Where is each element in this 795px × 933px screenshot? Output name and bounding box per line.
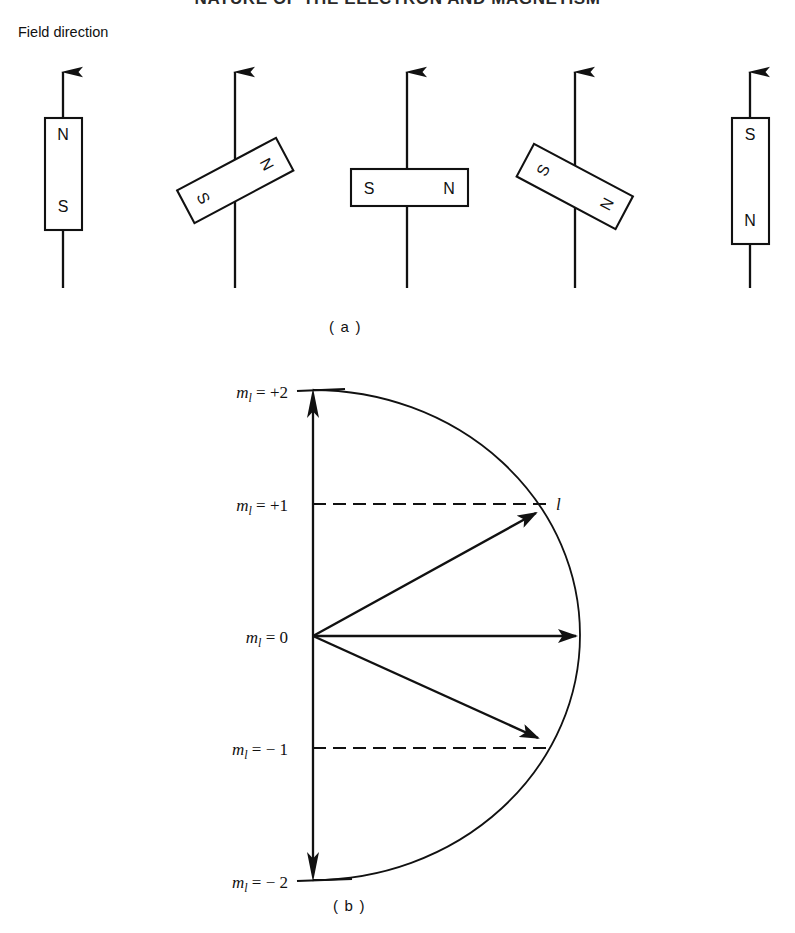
pole-label-north: N [57,126,69,143]
pole-label-south: S [745,126,756,143]
equals-sign: = [252,496,270,515]
magnet-group-2: S N [177,72,293,288]
pole-label-north: N [443,180,455,197]
equals-sign: = [261,628,279,647]
m-symbol: m [236,383,248,402]
figure-b: l ml = +2 ml = +1 ml = 0 ml = − 1 ml = −… [0,370,795,900]
svg-text:ml = +1: ml = +1 [236,496,288,518]
level-tick-minus-2 [297,879,352,881]
equals-sign: = [248,873,266,892]
level-label-plus-2: ml = +2 [236,383,288,405]
level-label-minus-2: ml = − 2 [232,873,288,895]
magnet-group-5: S N [732,72,769,288]
level-label-minus-1: ml = − 1 [232,740,288,762]
magnet-group-4: S N [517,72,633,288]
vector-to-minus-1 [313,636,538,738]
equals-sign: = [252,383,270,402]
magnet-group-1: N S [45,72,82,288]
m-symbol: m [232,873,244,892]
vector-to-plus-1 [313,513,536,636]
svg-text:ml = − 2: ml = − 2 [232,873,288,895]
pole-label-south: S [58,198,69,215]
vector-label-l: l [556,495,561,514]
pole-label-south: S [364,180,375,197]
m-symbol: m [232,740,244,759]
level-value: +2 [270,383,288,402]
m-symbol: m [236,496,248,515]
svg-text:ml = − 1: ml = − 1 [232,740,288,762]
level-value: +1 [270,496,288,515]
level-value: − 1 [266,740,288,759]
equals-sign: = [248,740,266,759]
svg-text:ml = +2: ml = +2 [236,383,288,405]
pole-label-north: N [744,212,756,229]
level-value: − 2 [266,873,288,892]
magnet-group-3: S N [351,72,468,288]
svg-text:ml = 0: ml = 0 [246,628,288,650]
figure-b-caption: ( b ) [333,897,366,914]
m-symbol: m [246,628,258,647]
figure-a-caption: ( a ) [329,318,362,335]
level-label-zero: ml = 0 [246,628,288,650]
figure-a: N S S N S N S N [0,0,795,320]
level-label-plus-1: ml = +1 [236,496,288,518]
figure-page: NATURE OF THE ELECTRON AND MAGNETISM Fie… [0,0,795,933]
level-value: 0 [280,628,289,647]
